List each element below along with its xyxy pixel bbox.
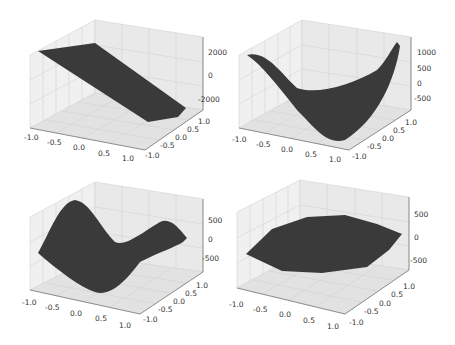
z-tick: 0: [208, 71, 213, 80]
y-tick: 0.5: [391, 290, 403, 299]
subplot-top-left: -1.0 -0.5 0.0 0.5 1.0 1.0 0.5 0.0 -0.5 -…: [0, 0, 227, 172]
x-tick: -0.5: [256, 140, 271, 149]
y-tick: -1.0: [145, 151, 160, 160]
y-tick: -0.5: [367, 142, 382, 151]
y-tick: 1.0: [196, 281, 208, 290]
y-tick: 1.0: [198, 117, 210, 126]
z-tick: 0: [417, 79, 422, 88]
x-tick: 1.0: [122, 154, 134, 163]
y-tick: 1.0: [405, 118, 417, 127]
y-tick: -0.5: [158, 305, 173, 314]
x-tick: 0.5: [98, 149, 110, 158]
subplot-bottom-left: -1.0 -0.5 0.0 0.5 1.0 1.0 0.5 0.0 -0.5 -…: [0, 172, 227, 344]
subplot-bottom-right: -1.0 -0.5 0.0 0.5 1.0 1.0 0.5 0.0 -0.5 -…: [227, 172, 454, 344]
x-tick: -1.0: [232, 135, 247, 144]
axes3d: -1.0 -0.5 0.0 0.5 1.0 1.0 0.5 0.0 -0.5 -…: [0, 0, 227, 172]
z-tick: 500: [414, 210, 429, 219]
x-tick: 0.0: [70, 309, 82, 318]
x-tick: 1.0: [327, 322, 339, 331]
x-tick: 1.0: [329, 155, 341, 164]
y-tick: 0.5: [187, 125, 199, 134]
z-tick: 1000: [417, 48, 436, 57]
z-tick: -2000: [198, 95, 220, 104]
y-tick: -1.0: [352, 152, 367, 161]
x-tick: -1.0: [24, 133, 39, 142]
y-tick: 0.0: [382, 134, 394, 143]
y-tick: 0.0: [173, 297, 185, 306]
x-tick: -0.5: [45, 303, 60, 312]
axes3d: -1.0 -0.5 0.0 0.5 1.0 1.0 0.5 0.0 -0.5 -…: [227, 172, 454, 344]
x-tick: 0.5: [305, 150, 317, 159]
axes3d: -1.0 -0.5 0.0 0.5 1.0 1.0 0.5 0.0 -0.5 -…: [227, 0, 454, 172]
y-tick: 0.5: [393, 126, 405, 135]
x-tick: -1.0: [22, 298, 37, 307]
z-tick: -500: [410, 256, 427, 265]
z-tick: 500: [208, 216, 223, 225]
x-tick: 1.0: [119, 321, 131, 330]
z-tick: -500: [202, 254, 219, 263]
x-tick: -0.5: [47, 138, 62, 147]
z-tick: 0: [414, 233, 419, 242]
y-tick: -0.5: [160, 141, 175, 150]
y-tick: 0.5: [185, 289, 197, 298]
y-tick: -1.0: [349, 318, 364, 327]
y-tick: -1.0: [143, 315, 158, 324]
x-tick: 0.5: [95, 314, 107, 323]
axes3d: -1.0 -0.5 0.0 0.5 1.0 1.0 0.5 0.0 -0.5 -…: [0, 172, 227, 344]
subplot-top-right: -1.0 -0.5 0.0 0.5 1.0 1.0 0.5 0.0 -0.5 -…: [227, 0, 454, 172]
x-tick: -0.5: [253, 305, 268, 314]
z-tick: -500: [414, 94, 431, 103]
z-tick: 2000: [208, 48, 227, 57]
y-tick: 1.0: [403, 282, 415, 291]
z-tick: 500: [417, 64, 432, 73]
y-tick: 0.0: [175, 133, 187, 142]
x-tick: 0.0: [281, 145, 293, 154]
x-tick: 0.0: [73, 143, 85, 152]
x-tick: -1.0: [229, 300, 244, 309]
y-tick: -0.5: [364, 307, 379, 316]
x-tick: 0.0: [279, 310, 291, 319]
x-tick: 0.5: [303, 316, 315, 325]
y-tick: 0.0: [379, 299, 391, 308]
z-tick: 0: [208, 235, 213, 244]
